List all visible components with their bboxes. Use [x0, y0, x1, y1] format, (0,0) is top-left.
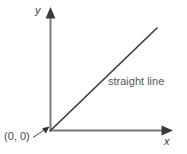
coordinate-axes-figure: y x (0, 0) straight line — [0, 0, 187, 154]
y-axis-arrowhead-icon — [46, 7, 56, 19]
straight-line-label: straight line — [108, 76, 164, 87]
origin-label: (0, 0) — [4, 131, 30, 142]
x-axis-arrowhead-icon — [162, 126, 174, 136]
y-axis-label: y — [35, 5, 41, 16]
x-axis-label: x — [164, 136, 170, 147]
